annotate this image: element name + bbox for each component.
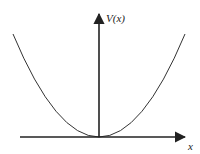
y-axis-label: V(x): [106, 12, 125, 25]
x-axis-label: x: [187, 140, 193, 152]
potential-diagram: V(x) x: [0, 0, 200, 154]
